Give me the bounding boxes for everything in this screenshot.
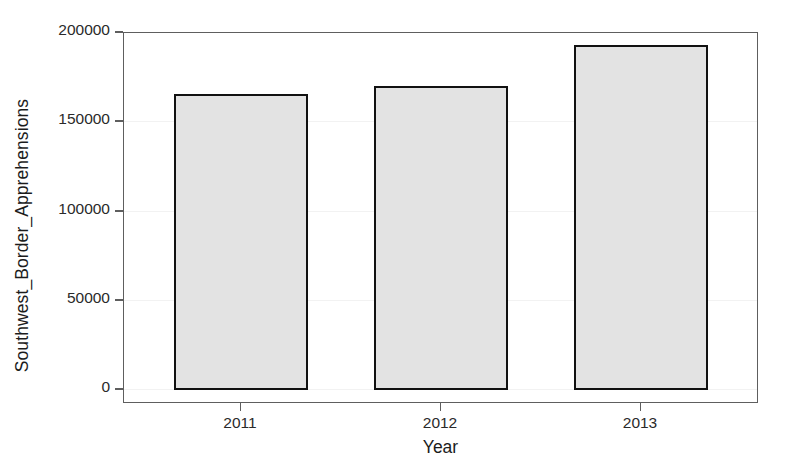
y-tick-mark-200000 — [115, 31, 123, 32]
plot-area — [123, 32, 758, 403]
bar-2013[interactable] — [574, 45, 708, 390]
y-tick-label-0: 0 — [101, 378, 110, 396]
y-tick-label-200000: 200000 — [58, 21, 110, 39]
y-tick-label-100000: 100000 — [58, 200, 110, 218]
y-tick-mark-0 — [115, 388, 123, 389]
x-tick-label-2013: 2013 — [623, 414, 657, 432]
x-tick-label-2011: 2011 — [223, 414, 256, 432]
x-tick-mark-2013 — [640, 403, 641, 411]
y-tick-mark-150000 — [115, 120, 123, 121]
y-tick-label-150000: 150000 — [58, 110, 110, 128]
bar-chart-figure: Southwest_Border_Apprehensions 200000 15… — [0, 0, 795, 471]
x-tick-label-2012: 2012 — [423, 414, 457, 432]
bars-layer — [124, 33, 757, 402]
x-tick-mark-2011 — [240, 403, 241, 411]
y-tick-mark-100000 — [115, 210, 123, 211]
bar-2012[interactable] — [374, 86, 508, 390]
x-tick-mark-2012 — [440, 403, 441, 411]
y-tick-label-50000: 50000 — [67, 289, 110, 307]
y-axis-title: Southwest_Border_Apprehensions — [0, 0, 44, 471]
x-axis-title: Year — [123, 437, 758, 458]
bar-2011[interactable] — [174, 94, 308, 390]
y-tick-mark-50000 — [115, 299, 123, 300]
